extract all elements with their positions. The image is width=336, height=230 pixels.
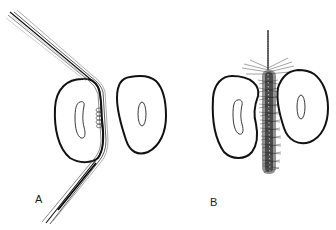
panel-a (6, 10, 166, 224)
panel-b-left-tooth-outline (213, 76, 259, 158)
interdental-cleaning-figure: A B (0, 0, 336, 230)
panel-a-right-tooth-pulp (138, 102, 146, 126)
figure-drawing (0, 0, 336, 230)
panel-a-left-tooth-pulp (75, 102, 85, 138)
panel-b (213, 30, 328, 174)
panel-a-label: A (35, 194, 42, 205)
panel-a-right-tooth-outline (117, 76, 166, 154)
floss-strands (6, 10, 108, 224)
panel-a-left-tooth-outline (55, 79, 103, 162)
panel-b-label: B (210, 197, 217, 208)
panel-b-right-tooth-outline (277, 70, 328, 143)
